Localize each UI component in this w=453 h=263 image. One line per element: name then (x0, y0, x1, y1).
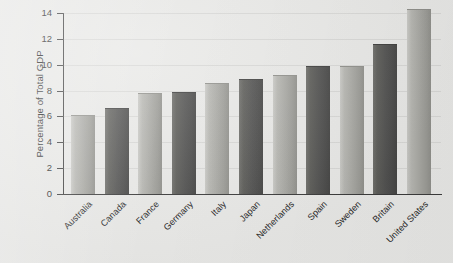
y-axis-tick-label: 8 (26, 86, 52, 96)
bar (273, 75, 297, 194)
bar (205, 83, 229, 194)
gridline (63, 39, 441, 40)
y-axis-tick-mark (57, 13, 63, 14)
y-axis-tick-mark (57, 168, 63, 169)
chart-figure: Percentage of Total GDP 02468101214 Aust… (0, 0, 453, 263)
y-axis-tick-mark (57, 116, 63, 117)
bar (105, 108, 129, 194)
plot-area (63, 13, 441, 194)
y-axis-tick-label: 4 (26, 137, 52, 147)
bar (306, 66, 330, 194)
bar (373, 44, 397, 194)
gridline (63, 13, 441, 14)
bar (239, 79, 263, 194)
y-axis-tick-label: 14 (26, 8, 52, 18)
y-axis-tick-label: 10 (26, 60, 52, 70)
y-axis-tick-mark (57, 65, 63, 66)
y-axis-tick-mark (57, 39, 63, 40)
bar (71, 115, 95, 194)
y-axis-tick-label: 6 (26, 111, 52, 121)
y-axis-tick-mark (57, 194, 63, 195)
y-axis-tick-label: 12 (26, 34, 52, 44)
bar (138, 93, 162, 194)
y-axis-tick-label: 0 (26, 189, 52, 199)
bar (340, 66, 364, 194)
y-axis-tick-mark (57, 142, 63, 143)
x-axis-line (63, 194, 442, 195)
y-axis-tick-label: 2 (26, 163, 52, 173)
bar (407, 9, 431, 194)
y-axis-tick-mark (57, 91, 63, 92)
bar (172, 92, 196, 194)
